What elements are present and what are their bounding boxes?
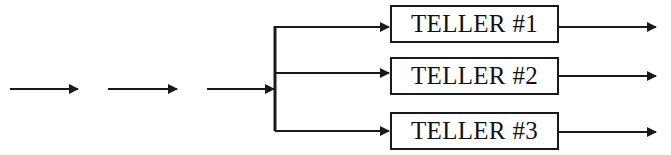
departure-arrows: [559, 27, 656, 132]
teller-1-label: TELLER #1: [411, 10, 538, 38]
teller-2-label: TELLER #2: [411, 62, 538, 90]
teller-1-box: TELLER #1: [390, 5, 559, 43]
teller-3-box: TELLER #3: [390, 112, 559, 150]
branch-arrows: [275, 27, 389, 131]
teller-2-box: TELLER #2: [390, 57, 559, 95]
teller-queue-diagram: [0, 0, 671, 155]
teller-3-label: TELLER #3: [411, 117, 538, 145]
